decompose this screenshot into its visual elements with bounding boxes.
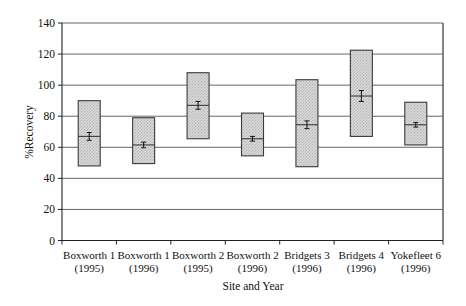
- x-axis-title: Site and Year: [222, 280, 283, 292]
- y-tick-label: 0: [49, 235, 55, 247]
- y-tick-label: 20: [44, 203, 56, 215]
- range-box: [350, 50, 372, 136]
- range-box-rect: [133, 118, 155, 164]
- y-tick-label: 140: [38, 17, 56, 29]
- x-category-year: (1996): [401, 262, 431, 275]
- range-box: [133, 118, 155, 164]
- x-category-year: (1996): [129, 262, 159, 275]
- boxes-group: [78, 50, 427, 167]
- y-tick-label: 40: [44, 172, 56, 184]
- range-box: [405, 102, 427, 145]
- x-category-label: Boxworth 1: [118, 249, 170, 261]
- y-axis-title: %Recovery: [23, 105, 36, 159]
- x-category-year: (1996): [292, 262, 322, 275]
- box-chart: 020406080100120140 Boxworth 1(1995)Boxwo…: [0, 0, 466, 306]
- y-tick-label: 60: [44, 141, 56, 153]
- x-category-label: Boxworth 1: [63, 249, 115, 261]
- range-box: [78, 101, 100, 166]
- x-category-label: Bridgets 3: [284, 249, 330, 261]
- range-box: [296, 80, 318, 167]
- x-category-year: (1995): [183, 262, 213, 275]
- x-category-label: Yokefleet 6: [391, 249, 442, 261]
- x-category-label: Boxworth 2: [172, 249, 224, 261]
- x-category-label: Bridgets 4: [339, 249, 385, 261]
- range-box: [242, 113, 264, 156]
- x-axis-ticks: Boxworth 1(1995)Boxworth 1(1996)Boxworth…: [62, 241, 443, 275]
- y-tick-label: 120: [38, 48, 56, 60]
- y-tick-label: 80: [44, 110, 56, 122]
- x-category-label: Boxworth 2: [226, 249, 278, 261]
- x-category-year: (1996): [347, 262, 377, 275]
- x-category-year: (1995): [75, 262, 105, 275]
- y-tick-label: 100: [38, 79, 56, 91]
- x-category-year: (1996): [238, 262, 268, 275]
- range-box: [187, 73, 209, 139]
- y-axis-ticks: 020406080100120140: [38, 17, 62, 247]
- range-box-rect: [242, 113, 264, 156]
